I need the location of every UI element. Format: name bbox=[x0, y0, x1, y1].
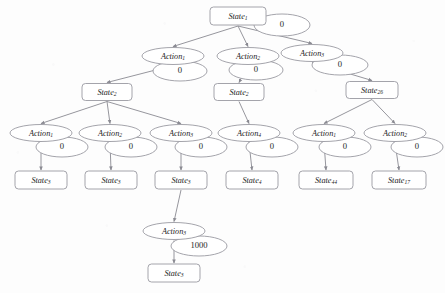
action-node-a3_1[interactable]: 0Action1 bbox=[293, 125, 371, 158]
action-node-a1_3[interactable]: 0Action3 bbox=[281, 45, 368, 76]
node-subscript: 4 bbox=[258, 132, 261, 138]
reward-value: 0 bbox=[270, 141, 274, 151]
node-subscript: 3 bbox=[187, 179, 191, 185]
tree-edge bbox=[41, 102, 107, 124]
node-subscript: 26 bbox=[377, 89, 383, 95]
state-node-l_s3a[interactable]: State3 bbox=[15, 171, 67, 189]
node-subscript: 3 bbox=[189, 132, 193, 138]
node-layer: 0State10Action10Action20Action3State2Sta… bbox=[10, 7, 443, 282]
node-label: Action3 bbox=[299, 48, 324, 58]
tree-edge bbox=[239, 102, 249, 124]
action-node-a1_2[interactable]: 0Action2 bbox=[217, 48, 283, 81]
tree-edge bbox=[107, 102, 110, 124]
reward-value: 0 bbox=[129, 141, 133, 151]
node-subscript: 2 bbox=[404, 132, 407, 138]
node-subscript: 2 bbox=[246, 91, 249, 97]
node-subscript: 3 bbox=[47, 179, 51, 185]
node-subscript: 1 bbox=[182, 55, 185, 61]
action-node-a2_2[interactable]: 0Action2 bbox=[79, 125, 157, 158]
reward-value: 0 bbox=[338, 59, 342, 69]
node-subscript: 4 bbox=[259, 179, 262, 185]
action-node-a4_3[interactable]: 1000Action3 bbox=[143, 223, 227, 257]
state-node-l_s44[interactable]: State44 bbox=[299, 171, 353, 189]
reward-value: 0 bbox=[60, 141, 64, 151]
node-subscript: 1 bbox=[333, 132, 336, 138]
node-label: Action2 bbox=[97, 128, 122, 138]
node-label: Action1 bbox=[311, 128, 336, 138]
diagram-canvas: 0State10Action10Action20Action3State2Sta… bbox=[0, 0, 445, 293]
reward-value: 0 bbox=[199, 141, 203, 151]
node-label: Action1 bbox=[160, 51, 185, 61]
node-subscript: 2 bbox=[257, 55, 260, 61]
node-label: Action1 bbox=[28, 128, 53, 138]
node-subscript: 3 bbox=[117, 179, 121, 185]
action-node-a2_1[interactable]: 0Action1 bbox=[10, 125, 88, 158]
node-subscript: 1 bbox=[245, 15, 248, 21]
state-node-l_s17[interactable]: State17 bbox=[372, 171, 426, 189]
node-subscript: 3 bbox=[182, 230, 186, 236]
node-subscript: 2 bbox=[119, 132, 122, 138]
reward-value: 0 bbox=[343, 141, 347, 151]
tree-diagram: 0State10Action10Action20Action3State2Sta… bbox=[0, 0, 445, 293]
state-node-s2_b[interactable]: State2 bbox=[214, 84, 264, 101]
state-node-s26[interactable]: State26 bbox=[346, 82, 398, 99]
tree-edge bbox=[174, 190, 181, 222]
action-node-a1_1[interactable]: 0Action1 bbox=[142, 48, 207, 82]
node-label: Action3 bbox=[168, 128, 193, 138]
node-subscript: 1 bbox=[50, 132, 53, 138]
state-node-s1[interactable]: 0State1 bbox=[210, 7, 310, 36]
state-node-f_s3[interactable]: State3 bbox=[148, 264, 200, 282]
state-node-l_s3b[interactable]: State3 bbox=[85, 171, 137, 189]
node-label: Action4 bbox=[236, 128, 261, 138]
state-node-s2_a[interactable]: State2 bbox=[82, 84, 132, 101]
node-label: Action3 bbox=[161, 226, 186, 236]
node-subscript: 44 bbox=[331, 179, 337, 185]
action-node-a3_2[interactable]: 0Action2 bbox=[364, 125, 443, 158]
reward-value: 0 bbox=[178, 65, 182, 75]
node-subscript: 2 bbox=[114, 91, 117, 97]
tree-edge bbox=[107, 102, 181, 124]
tree-edge bbox=[372, 100, 395, 124]
node-subscript: 3 bbox=[320, 52, 324, 58]
reward-value: 0 bbox=[415, 141, 419, 151]
action-node-a2_3[interactable]: 0Action3 bbox=[150, 125, 227, 158]
node-label: Action2 bbox=[382, 128, 407, 138]
tree-edge bbox=[238, 26, 248, 47]
node-subscript: 17 bbox=[404, 179, 410, 185]
tree-edge bbox=[324, 100, 372, 124]
reward-value: 0 bbox=[280, 19, 284, 29]
node-subscript: 3 bbox=[180, 272, 184, 278]
state-node-l_s3c[interactable]: State3 bbox=[155, 171, 207, 189]
node-label: Action2 bbox=[235, 51, 260, 61]
reward-value: 1000 bbox=[190, 240, 207, 250]
action-node-a2_4[interactable]: 0Action4 bbox=[218, 125, 298, 158]
tree-edge bbox=[173, 26, 238, 47]
reward-value: 0 bbox=[254, 64, 258, 74]
state-node-l_s4[interactable]: State4 bbox=[226, 171, 278, 189]
